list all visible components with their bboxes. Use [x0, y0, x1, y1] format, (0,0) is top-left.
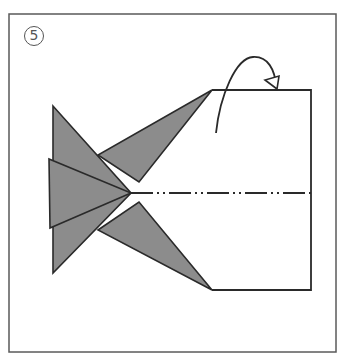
diagram-canvas	[0, 0, 343, 354]
fold-arrowhead-icon	[265, 76, 279, 89]
step-number-badge: 5	[24, 26, 44, 46]
upper-flap	[98, 90, 212, 182]
fold-arrow	[216, 57, 276, 133]
lower-flap	[98, 202, 212, 290]
paper-outline	[212, 90, 311, 290]
origami-diagram: 5	[0, 0, 343, 354]
